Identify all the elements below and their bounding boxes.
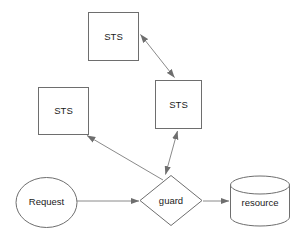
sts-top-label: STS <box>104 31 122 42</box>
edge-sts-top-to-sts-middle <box>141 35 175 78</box>
resource-cylinder-top <box>231 176 290 194</box>
sts-middle-label: STS <box>169 99 187 110</box>
diagram-canvas: middle STS --> middle STS --> left STS -… <box>0 0 302 238</box>
node-sts-top[interactable]: STS <box>89 13 139 61</box>
request-label: Request <box>29 196 65 207</box>
edge-guard-to-sts-middle <box>166 131 178 175</box>
node-guard[interactable]: guard <box>140 176 202 226</box>
node-sts-left[interactable]: STS <box>39 88 89 135</box>
guard-label: guard <box>159 195 183 206</box>
edge-guard-to-sts-left <box>87 136 163 181</box>
node-request[interactable]: Request <box>16 178 77 228</box>
sts-left-label: STS <box>54 105 72 116</box>
resource-label: resource <box>242 197 279 208</box>
node-sts-middle[interactable]: STS <box>156 81 202 129</box>
node-resource[interactable]: resource <box>231 176 290 226</box>
